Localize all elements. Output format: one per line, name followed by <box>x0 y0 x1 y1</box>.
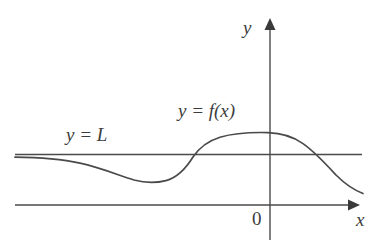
y-axis-group <box>265 18 276 240</box>
curve-label: y = f(x) <box>178 101 235 120</box>
x-axis-group <box>15 200 360 211</box>
limit-line-label: y = L <box>66 125 107 144</box>
figure-canvas <box>0 0 381 250</box>
math-figure: y = f(x) y = L y x 0 <box>0 0 381 250</box>
x-axis-label: x <box>356 210 364 229</box>
y-axis-label: y <box>243 18 251 37</box>
origin-label: 0 <box>252 209 262 228</box>
y-axis-arrowhead <box>265 18 276 30</box>
